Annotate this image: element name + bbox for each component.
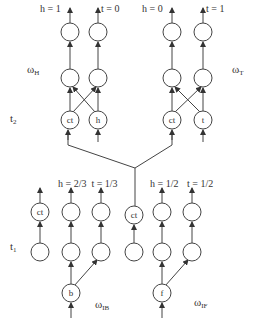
hidden-node	[89, 69, 107, 87]
hidden-node	[62, 243, 80, 261]
junction-connector	[68, 130, 172, 206]
hidden-node	[194, 69, 212, 87]
output-node	[183, 203, 201, 221]
layer-label-t2: t2	[10, 112, 17, 126]
weight-label-H: ωH	[27, 63, 39, 77]
ct-label: ct	[169, 115, 176, 125]
weight-label-IB: ωIB	[95, 298, 110, 312]
output-node	[153, 203, 171, 221]
output-label: h = 1	[40, 3, 61, 14]
ct-label: ct	[67, 115, 74, 125]
output-label: t = 0	[101, 3, 119, 14]
h-label: h	[96, 115, 101, 125]
output-node	[89, 23, 107, 41]
output-label: h = 0	[142, 3, 163, 14]
hidden-node	[92, 243, 110, 261]
output-label: t = 1	[206, 3, 224, 14]
f-label: f	[161, 288, 164, 298]
ct-label: ct	[131, 210, 138, 220]
output-node	[163, 23, 181, 41]
hidden-node	[163, 69, 181, 87]
ct-label: ct	[37, 207, 44, 217]
group-top-right: ct t h = 0 t = 1 ωT	[142, 3, 244, 142]
output-label: h = 2/3 t = 1/3	[58, 178, 118, 189]
b-label: b	[69, 288, 74, 298]
layer-label-t1: t1	[10, 240, 17, 254]
hidden-node	[31, 243, 49, 261]
output-node	[92, 203, 110, 221]
network-diagram: ct h h = 1 t = 0 ωH ct t h = 0 t = 1 ωT	[0, 0, 258, 328]
weight-label-IF: ωIF	[194, 296, 208, 310]
output-node	[62, 203, 80, 221]
weight-label-T: ωT	[232, 63, 244, 77]
hidden-node	[183, 243, 201, 261]
group-top-left: ct h h = 1 t = 0 ωH	[27, 3, 119, 142]
hidden-node	[61, 69, 79, 87]
hidden-node	[125, 243, 143, 261]
output-label: h = 1/2	[150, 178, 178, 189]
group-bottom-left: h = 2/3 t = 1/3 ct b ωIB	[31, 178, 118, 318]
hidden-node	[153, 243, 171, 261]
group-bottom-right: h = 1/2 t = 1/2 ct f ωIF	[125, 178, 213, 318]
output-label: t = 1/2	[187, 178, 213, 189]
output-node	[194, 23, 212, 41]
output-node	[61, 23, 79, 41]
